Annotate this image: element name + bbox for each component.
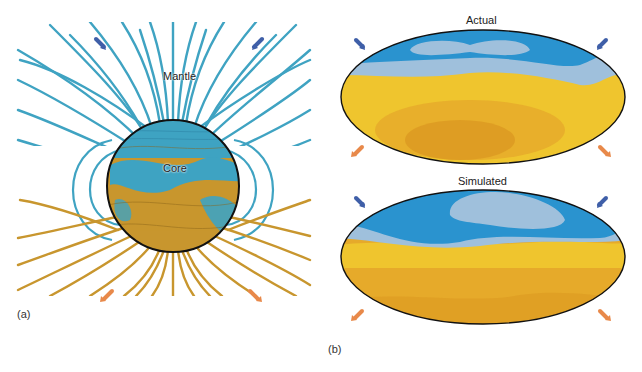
actual-map-title: Actual [466, 14, 497, 26]
inward-arrow-right-icon [252, 39, 262, 50]
actual-inward-arrow-right-icon [597, 40, 606, 50]
core-label: Core [163, 162, 187, 174]
simulated-inward-arrow-right-icon [597, 198, 606, 208]
simulated-outward-arrow-right-icon [600, 311, 611, 321]
panel-b-label: (b) [328, 343, 341, 355]
simulated-map-title: Simulated [458, 175, 507, 187]
field-lines-illustration [0, 0, 320, 372]
panel-a-field-lines: Mantle Core (a) [0, 0, 320, 372]
mantle-label: Mantle [163, 70, 196, 82]
actual-map [320, 28, 642, 168]
panel-a-label: (a) [17, 308, 30, 320]
panel-b-field-maps: Actual Simulated (b) [320, 0, 642, 372]
simulated-outward-arrow-left-icon [351, 311, 362, 321]
outward-arrow-left-icon [100, 291, 112, 302]
simulated-map [320, 188, 642, 328]
actual-inward-arrow-left-icon [356, 40, 365, 50]
simulated-inward-arrow-left-icon [356, 198, 365, 208]
actual-outward-arrow-left-icon [351, 147, 362, 157]
actual-outward-arrow-right-icon [600, 147, 611, 157]
outward-arrow-right-icon [250, 291, 262, 302]
